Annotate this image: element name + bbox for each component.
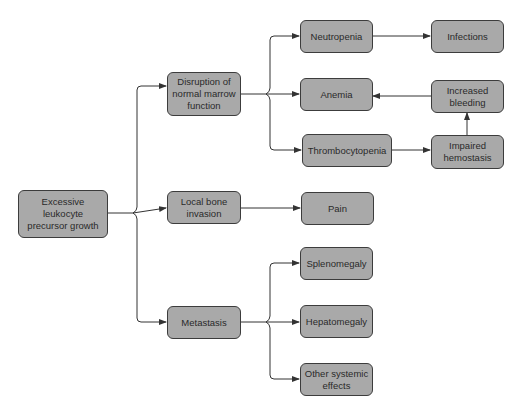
node-splenomegaly: Splenomegaly [300,247,373,280]
node-disruption-marrow-function: Disruption of normal marrow function [167,72,241,116]
node-hepatomegaly: Hepatomegaly [300,305,373,338]
node-impaired-hemostasis: Impaired hemostasis [431,135,504,169]
node-thrombocytopenia: Thrombocytopenia [302,134,392,167]
node-infections: Infections [431,20,504,53]
node-excessive-leukocyte-growth: Excessive leukocyte precursor growth [18,190,108,238]
node-increased-bleeding: Increased bleeding [431,80,504,113]
node-local-bone-invasion: Local bone invasion [167,191,241,224]
node-metastasis: Metastasis [167,306,241,339]
node-other-systemic-effects: Other systemic effects [300,363,373,396]
node-pain: Pain [301,192,374,225]
node-neutropenia: Neutropenia [300,20,373,53]
node-anemia: Anemia [300,78,373,111]
